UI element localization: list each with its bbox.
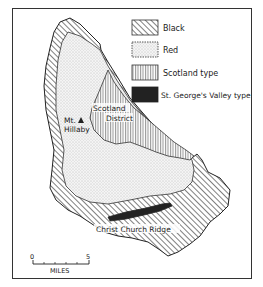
mt-hillaby-label-line2: Hillaby	[64, 125, 90, 134]
legend-swatch-red	[132, 42, 158, 57]
legend-swatch-scotland	[132, 65, 158, 80]
scotland-district-label-line1: Scotland	[93, 104, 126, 113]
legend-swatch-st-george	[132, 87, 158, 102]
scotland-district-label-line2: District	[106, 114, 133, 123]
legend-swatch-black	[132, 20, 158, 35]
legend-label-black: Black	[163, 24, 185, 33]
soil-map: Christ Church Ridge Mt. Hillaby Scotland…	[0, 0, 263, 287]
legend-label-red: Red	[163, 46, 178, 55]
legend-label-scotland: Scotland type	[163, 69, 218, 78]
mt-hillaby-label-line1: Mt.	[64, 116, 76, 125]
christ-church-ridge-label: Christ Church Ridge	[96, 225, 171, 234]
scale-unit-label: MILES	[50, 267, 69, 275]
scale-end-label: 5	[86, 253, 90, 261]
legend-label-st-george: St. George's Valley type	[161, 91, 251, 100]
scale-start-label: 0	[30, 253, 34, 261]
